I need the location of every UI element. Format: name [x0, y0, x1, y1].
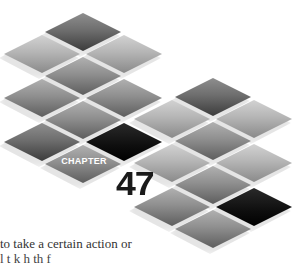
chapter-number: 47: [116, 166, 154, 200]
body-text-line-1: to take a certain action or: [0, 236, 200, 251]
chapter-label: CHAPTER: [58, 156, 110, 166]
body-text-line-2: l t k h th f: [0, 251, 200, 266]
body-text: to take a certain action or l t k h th f: [0, 236, 200, 266]
